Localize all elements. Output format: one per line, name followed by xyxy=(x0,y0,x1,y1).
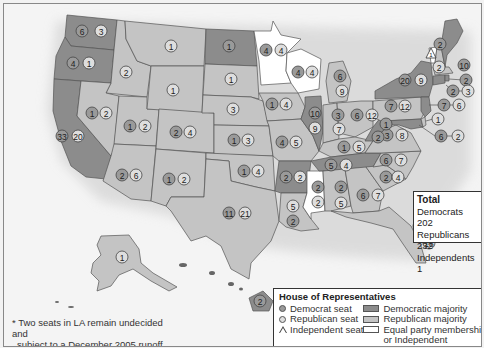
democrat-seat-marker: 7 xyxy=(438,99,450,111)
democrat-seat-marker: 2 xyxy=(312,181,324,193)
republican-seat-marker: 9 xyxy=(336,85,348,97)
democrat-seat-marker: 2 xyxy=(380,171,392,183)
svg-text:2: 2 xyxy=(124,68,129,78)
republican-seat-marker: 1 xyxy=(432,113,444,125)
republican-seat-marker: 7 xyxy=(333,123,345,135)
republican-seat-marker: 4 xyxy=(280,98,292,110)
state-ct xyxy=(433,75,445,85)
democrat-seat-marker: 2 xyxy=(116,169,128,181)
republican-seat-marker: 1 xyxy=(83,57,95,69)
svg-text:2: 2 xyxy=(298,173,303,183)
svg-text:33: 33 xyxy=(57,132,67,142)
svg-text:5: 5 xyxy=(339,199,344,209)
democrat-seat-marker: 6 xyxy=(334,70,346,82)
svg-text:7: 7 xyxy=(337,125,342,135)
svg-text:1: 1 xyxy=(342,143,347,153)
svg-text:7: 7 xyxy=(442,101,447,111)
republican-seat-marker: 8 xyxy=(396,129,408,141)
legend-label: Republican majority xyxy=(383,314,466,325)
democrat-seat-marker: 2 xyxy=(335,181,347,193)
svg-text:4: 4 xyxy=(188,128,193,138)
svg-text:1: 1 xyxy=(87,59,92,69)
democrat-seat-marker: 1 xyxy=(163,173,175,185)
legend-label: or Independent xyxy=(383,335,447,346)
footnote-line-2: subject to a December 2005 runoff. xyxy=(12,339,172,347)
svg-text:2: 2 xyxy=(437,63,442,73)
svg-text:1: 1 xyxy=(227,42,232,52)
legend: House of Representatives Democrat seat R… xyxy=(273,288,482,347)
svg-text:6: 6 xyxy=(384,156,389,166)
svg-text:10: 10 xyxy=(310,109,320,119)
democrat-seat-marker: 6 xyxy=(76,25,88,37)
republican-seat-marker: 7 xyxy=(395,154,407,166)
svg-text:11: 11 xyxy=(225,209,234,219)
svg-text:2: 2 xyxy=(120,171,125,181)
svg-text:2: 2 xyxy=(104,109,109,119)
svg-text:1: 1 xyxy=(270,100,275,110)
republican-seat-marker: 2 xyxy=(433,61,445,73)
republican-seat-marker: 2 xyxy=(452,130,464,142)
svg-text:8: 8 xyxy=(400,131,405,141)
democrat-seat-marker: 6 xyxy=(380,154,392,166)
svg-text:2: 2 xyxy=(339,183,344,193)
svg-text:2: 2 xyxy=(384,173,389,183)
republican-seat-marker: 5 xyxy=(287,200,299,212)
svg-text:1: 1 xyxy=(90,109,95,119)
svg-text:2: 2 xyxy=(438,40,443,50)
republican-seat-marker: 2 xyxy=(312,196,324,208)
republican-seat-marker: 2 xyxy=(120,66,132,78)
democrat-seat-marker: 7 xyxy=(385,100,397,112)
republican-seat-marker: 2 xyxy=(100,107,112,119)
svg-text:2: 2 xyxy=(451,87,456,97)
democrat-seat-marker: 20 xyxy=(399,74,411,86)
footnote-line-1: * Two seats in LA remain undecided and xyxy=(12,317,172,339)
svg-text:12: 12 xyxy=(400,102,410,112)
svg-text:6: 6 xyxy=(355,111,360,121)
svg-text:21: 21 xyxy=(240,209,250,219)
democrat-seat-marker: 4 xyxy=(276,136,288,148)
republican-seat-marker: 4 xyxy=(340,159,352,171)
map-frame: 6341233201212261124121131314112144144522… xyxy=(3,3,482,347)
republican-seat-marker: 3 xyxy=(95,25,107,37)
svg-text:20: 20 xyxy=(73,132,83,142)
democrat-seat-marker: 5 xyxy=(325,159,337,171)
svg-text:2: 2 xyxy=(464,76,469,86)
democrat-seat-marker: 1 xyxy=(228,134,240,146)
republican-seat-marker: 1 xyxy=(165,40,177,52)
democrat-seat-marker: 2 xyxy=(434,38,446,50)
democrat-seat-marker: 11 xyxy=(223,207,235,219)
total-title: Total xyxy=(417,194,479,206)
legend-independent-seat: Independent seat xyxy=(279,325,363,336)
svg-text:4: 4 xyxy=(310,68,315,78)
svg-text:1: 1 xyxy=(128,122,133,132)
democrat-seat-marker: 4 xyxy=(292,66,304,78)
republican-seat-marker: 6 xyxy=(130,169,142,181)
legend-equal-membership-cont: or Independent xyxy=(363,335,482,346)
svg-text:20: 20 xyxy=(400,76,410,86)
svg-text:2: 2 xyxy=(291,217,296,227)
svg-text:2: 2 xyxy=(143,122,148,132)
svg-text:6: 6 xyxy=(134,171,139,181)
svg-text:4: 4 xyxy=(279,46,284,56)
republican-seat-marker: 3 xyxy=(227,103,239,115)
svg-text:4: 4 xyxy=(396,173,401,183)
total-democrats: Democrats 202 xyxy=(417,206,479,229)
republican-seat-marker: 5 xyxy=(335,197,347,209)
democrat-seat-marker: 2 xyxy=(372,131,384,143)
svg-text:3: 3 xyxy=(246,136,251,146)
legend-republican-majority: Republican majority xyxy=(363,314,482,325)
democratic-majority-swatch-icon xyxy=(363,305,379,312)
legend-label: Independent seat xyxy=(290,325,363,336)
svg-text:12: 12 xyxy=(367,111,377,121)
svg-text:1: 1 xyxy=(169,42,174,52)
republican-seat-marker: 7 xyxy=(372,189,384,201)
republican-seat-marker: 4 xyxy=(306,66,318,78)
republican-seat-marker: 2 xyxy=(178,173,190,185)
svg-text:1: 1 xyxy=(171,86,176,96)
republican-seat-marker: 4 xyxy=(184,126,196,138)
svg-text:3: 3 xyxy=(99,27,104,37)
svg-text:9: 9 xyxy=(340,87,345,97)
svg-text:4: 4 xyxy=(256,167,261,177)
democrat-seat-marker: 1 xyxy=(86,107,98,119)
svg-text:2: 2 xyxy=(456,132,461,142)
